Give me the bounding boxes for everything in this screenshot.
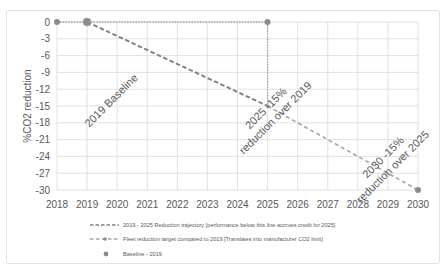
y-tick-label: -15 [36,101,51,112]
y-tick-label: -27 [36,168,51,179]
x-tick-label: 2024 [226,199,249,210]
co2-reduction-line-chart: 0-3-6-9-12-15-18-21-24-27-30201820192020… [0,0,447,278]
y-tick-label: -6 [41,50,50,61]
x-tick-label: 2030 [407,199,430,210]
annotation-label: 2019 Baseline [82,71,140,129]
y-tick-label: -21 [36,134,51,145]
y-tick-label: -9 [41,67,50,78]
x-tick-label: 2025 [256,199,279,210]
x-tick-label: 2023 [196,199,219,210]
y-tick-label: -24 [36,151,51,162]
x-tick-label: 2021 [136,199,159,210]
x-tick-label: 2027 [317,199,340,210]
y-tick-label: -12 [36,84,51,95]
fleet-target-marker [265,19,271,25]
x-tick-label: 2029 [377,199,400,210]
x-tick-label: 2020 [106,199,129,210]
x-tick-label: 2022 [166,199,189,210]
x-tick-label: 2019 [76,199,99,210]
annotation-label: 2025 -15%reduction over 2019 [227,69,314,156]
annotations: 2019 Baseline2025 -15%reduction over 201… [82,69,431,205]
y-tick-label: -18 [36,117,51,128]
fleet-target-marker [415,187,421,193]
x-tick-label: 2026 [287,199,310,210]
y-tick-label: -30 [36,185,51,196]
y-axis-title: %CO2 reduction [22,69,33,142]
x-tick-label: 2018 [46,199,69,210]
annotation-text-line: 2019 Baseline [82,71,140,129]
y-tick-label: -3 [41,33,50,44]
fleet-target-marker [54,19,60,25]
baseline-marker [83,18,91,26]
y-tick-label: 0 [44,17,50,28]
